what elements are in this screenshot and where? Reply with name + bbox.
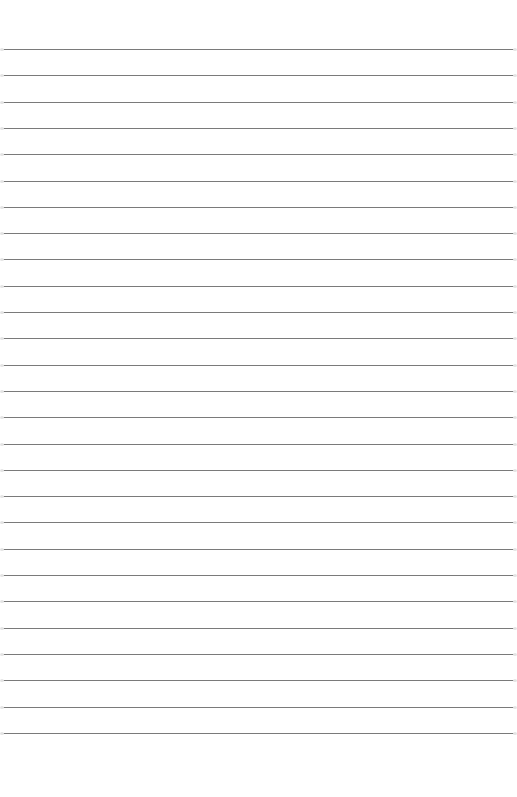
ruled-line bbox=[3, 575, 514, 576]
ruled-line bbox=[3, 417, 514, 418]
ruled-line bbox=[3, 470, 514, 471]
ruled-line bbox=[3, 102, 514, 103]
ruled-line bbox=[3, 549, 514, 550]
ruled-line bbox=[3, 181, 514, 182]
ruled-line bbox=[3, 154, 514, 155]
ruled-line bbox=[3, 680, 514, 681]
ruled-line bbox=[3, 654, 514, 655]
ruled-line bbox=[3, 365, 514, 366]
lined-paper-page bbox=[0, 0, 517, 797]
ruled-line bbox=[3, 496, 514, 497]
ruled-line bbox=[3, 707, 514, 708]
ruled-line bbox=[3, 391, 514, 392]
ruled-line bbox=[3, 233, 514, 234]
ruled-line bbox=[3, 601, 514, 602]
ruled-line bbox=[3, 128, 514, 129]
ruled-line bbox=[3, 628, 514, 629]
ruled-line bbox=[3, 522, 514, 523]
ruled-line bbox=[3, 259, 514, 260]
ruled-line bbox=[3, 338, 514, 339]
ruled-line bbox=[3, 444, 514, 445]
ruled-line bbox=[3, 286, 514, 287]
ruled-line bbox=[3, 75, 514, 76]
ruled-line bbox=[3, 207, 514, 208]
ruled-line bbox=[3, 312, 514, 313]
ruled-line bbox=[3, 733, 514, 734]
ruled-line bbox=[3, 49, 514, 50]
